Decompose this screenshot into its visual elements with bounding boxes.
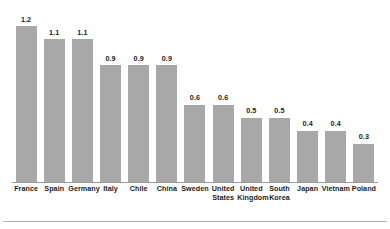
bar-group[interactable]: 0.9 bbox=[125, 4, 153, 183]
bar-group[interactable]: 0.5 bbox=[237, 4, 265, 183]
category-label-line: Chile bbox=[125, 185, 153, 194]
bar-rect[interactable] bbox=[269, 118, 290, 183]
bar-column: 0.5 bbox=[237, 4, 265, 183]
bar-value-label: 0.9 bbox=[134, 54, 144, 63]
category-label-line: Poland bbox=[350, 185, 378, 194]
category-label: Poland bbox=[350, 185, 378, 194]
category-label: UnitedStates bbox=[209, 185, 237, 202]
bar-group[interactable]: 0.4 bbox=[322, 4, 350, 183]
category-label: Italy bbox=[96, 185, 124, 194]
bar-column: 0.9 bbox=[153, 4, 181, 183]
bar-column: 0.4 bbox=[322, 4, 350, 183]
bar-value-label: 0.5 bbox=[246, 106, 256, 115]
bar-value-label: 1.1 bbox=[49, 28, 59, 37]
bar-value-label: 1.1 bbox=[77, 28, 87, 37]
category-label: Vietnam bbox=[322, 185, 350, 194]
bar-group[interactable]: 0.4 bbox=[294, 4, 322, 183]
bar-value-label: 0.4 bbox=[302, 119, 312, 128]
plot-area: 1.21.11.10.90.90.90.60.60.50.50.40.40.3 bbox=[12, 4, 378, 183]
bar-column: 1.2 bbox=[12, 4, 40, 183]
bar-rect[interactable] bbox=[16, 26, 37, 183]
bar-column: 0.3 bbox=[350, 4, 378, 183]
category-label: UnitedKingdom bbox=[237, 185, 265, 202]
bar-column: 0.9 bbox=[96, 4, 124, 183]
bar-chart: 1.21.11.10.90.90.90.60.60.50.50.40.40.3 … bbox=[0, 0, 390, 229]
bar-group[interactable]: 1.2 bbox=[12, 4, 40, 183]
bar-value-label: 1.2 bbox=[21, 15, 31, 24]
bar-rect[interactable] bbox=[297, 131, 318, 183]
bar-column: 1.1 bbox=[40, 4, 68, 183]
bar-rect[interactable] bbox=[128, 65, 149, 183]
bar-column: 0.6 bbox=[209, 4, 237, 183]
category-label: China bbox=[153, 185, 181, 194]
category-label-line: Germany bbox=[68, 185, 96, 194]
category-label: Sweden bbox=[181, 185, 209, 194]
bar-rect[interactable] bbox=[241, 118, 262, 183]
bar-group[interactable]: 0.9 bbox=[96, 4, 124, 183]
category-label-line: Japan bbox=[294, 185, 322, 194]
bar-value-label: 0.5 bbox=[274, 106, 284, 115]
bar-group[interactable]: 1.1 bbox=[40, 4, 68, 183]
bar-column: 1.1 bbox=[68, 4, 96, 183]
bar-value-label: 0.6 bbox=[190, 93, 200, 102]
bar-column: 0.4 bbox=[294, 4, 322, 183]
category-label-line: Kingdom bbox=[237, 194, 265, 203]
bar-column: 0.6 bbox=[181, 4, 209, 183]
bar-group[interactable]: 0.3 bbox=[350, 4, 378, 183]
x-axis-category-labels: FranceSpainGermanyItalyChileChinaSwedenU… bbox=[12, 185, 378, 215]
category-label-line: China bbox=[153, 185, 181, 194]
category-label-line: Sweden bbox=[181, 185, 209, 194]
bar-group[interactable]: 1.1 bbox=[68, 4, 96, 183]
bar-rect[interactable] bbox=[44, 39, 65, 183]
bar-rect[interactable] bbox=[72, 39, 93, 183]
category-label-line: Vietnam bbox=[322, 185, 350, 194]
category-label-line: Italy bbox=[96, 185, 124, 194]
category-label-line: States bbox=[209, 194, 237, 203]
bar-column: 0.5 bbox=[265, 4, 293, 183]
bar-value-label: 0.9 bbox=[162, 54, 172, 63]
category-label: Japan bbox=[294, 185, 322, 194]
bar-group[interactable]: 0.5 bbox=[265, 4, 293, 183]
category-label: Spain bbox=[40, 185, 68, 194]
bar-column: 0.9 bbox=[125, 4, 153, 183]
bar-group[interactable]: 0.9 bbox=[153, 4, 181, 183]
bar-group[interactable]: 0.6 bbox=[209, 4, 237, 183]
category-label: France bbox=[12, 185, 40, 194]
bar-rect[interactable] bbox=[156, 65, 177, 183]
bar-rect[interactable] bbox=[184, 105, 205, 184]
category-label-line: France bbox=[12, 185, 40, 194]
bar-value-label: 0.9 bbox=[105, 54, 115, 63]
x-axis-line bbox=[12, 182, 378, 183]
bar-value-label: 0.6 bbox=[218, 93, 228, 102]
category-label: Germany bbox=[68, 185, 96, 194]
category-label: SouthKorea bbox=[265, 185, 293, 202]
category-label-line: Korea bbox=[265, 194, 293, 203]
category-label: Chile bbox=[125, 185, 153, 194]
category-label-line: Spain bbox=[40, 185, 68, 194]
bar-value-label: 0.4 bbox=[331, 119, 341, 128]
bar-group[interactable]: 0.6 bbox=[181, 4, 209, 183]
bar-value-label: 0.3 bbox=[359, 132, 369, 141]
bar-rect[interactable] bbox=[353, 144, 374, 183]
bar-rect[interactable] bbox=[325, 131, 346, 183]
bottom-divider bbox=[3, 221, 387, 222]
bar-rect[interactable] bbox=[100, 65, 121, 183]
bar-rect[interactable] bbox=[213, 105, 234, 184]
